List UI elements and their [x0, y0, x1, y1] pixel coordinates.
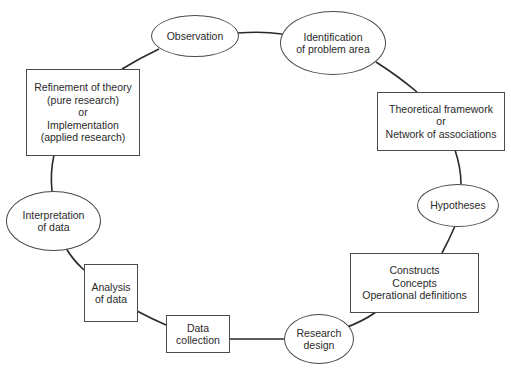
node-analysis-of-data: Analysis of data: [84, 264, 138, 322]
node-refinement-line-2: (pure research): [47, 94, 119, 107]
node-data-collection-line-1: Data: [187, 322, 209, 335]
node-identification-line-1: Identification: [304, 31, 363, 44]
node-research-design-line-1: Research: [297, 327, 342, 340]
node-research-design: Research design: [284, 314, 354, 364]
edge-interpretation-refinement: [51, 155, 54, 191]
node-identification-line-2: of problem area: [296, 43, 370, 56]
edge-data-collection-analysis: [137, 311, 166, 325]
node-hypotheses-line-1: Hypotheses: [430, 199, 485, 212]
node-constructs-line-2: Concepts: [392, 277, 436, 290]
node-theoretical-framework: Theoretical framework or Network of asso…: [377, 92, 505, 151]
node-refinement-of-theory: Refinement of theory (pure research) or …: [26, 69, 140, 156]
edge-analysis-interpretation: [66, 248, 84, 270]
node-refinement-line-4: Implementation: [47, 119, 119, 132]
node-interpretation-of-data: Interpretation of data: [6, 191, 101, 251]
edge-hypotheses-constructs: [442, 226, 455, 253]
node-data-collection-line-2: collection: [176, 334, 220, 347]
node-theoretical-line-2: or: [436, 115, 445, 128]
node-observation: Observation: [151, 15, 239, 57]
node-constructs-line-1: Constructs: [389, 264, 439, 277]
node-observation-line-1: Observation: [167, 30, 224, 43]
cycle-connectors: [0, 0, 511, 373]
node-constructs-line-3: Operational definitions: [362, 289, 466, 302]
node-refinement-line-5: (applied research): [41, 131, 126, 144]
node-identification-of-problem-area: Identification of problem area: [280, 11, 386, 75]
edge-identification-theoretical: [376, 62, 417, 92]
node-hypotheses: Hypotheses: [417, 184, 499, 227]
edge-theoretical-hypotheses: [455, 150, 461, 184]
node-interpretation-line-2: of data: [37, 221, 69, 234]
node-interpretation-line-1: Interpretation: [23, 209, 85, 222]
node-research-design-line-2: design: [304, 339, 335, 352]
node-refinement-line-1: Refinement of theory: [34, 81, 131, 94]
node-data-collection: Data collection: [166, 315, 230, 353]
node-analysis-line-2: of data: [95, 293, 127, 306]
node-analysis-line-1: Analysis: [91, 281, 130, 294]
node-constructs-concepts: Constructs Concepts Operational definiti…: [350, 253, 479, 313]
edge-observation-identification: [238, 32, 282, 34]
edge-refinement-observation: [122, 49, 159, 69]
node-theoretical-line-3: Network of associations: [386, 128, 497, 141]
node-theoretical-line-1: Theoretical framework: [389, 103, 493, 116]
node-refinement-line-3: or: [78, 106, 87, 119]
